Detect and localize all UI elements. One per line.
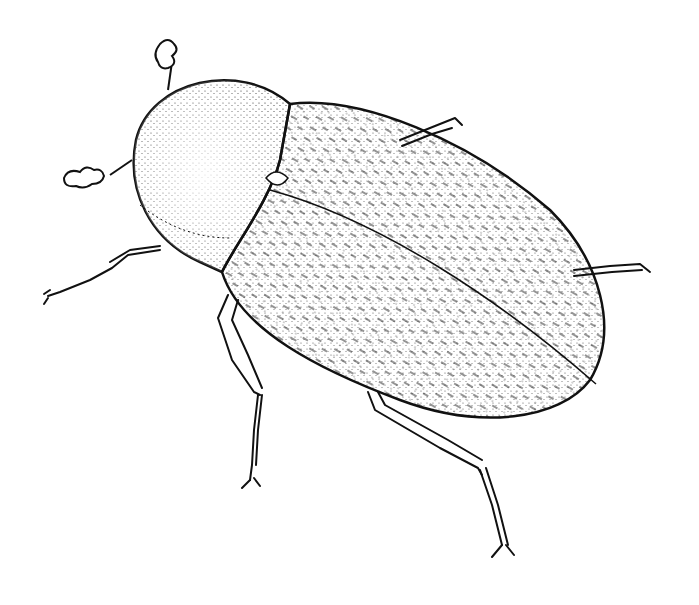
beetle-drawing (0, 0, 699, 605)
beetle-illustration (0, 0, 699, 605)
